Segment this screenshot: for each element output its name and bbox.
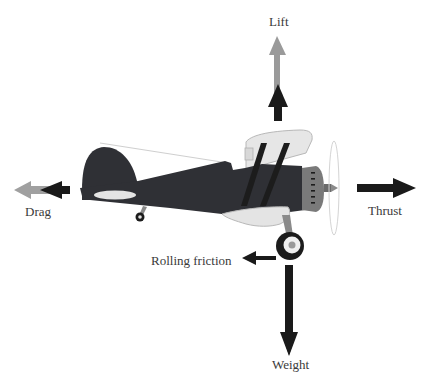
lift-label: Lift [269, 15, 289, 28]
main-wheel-hub [289, 242, 296, 249]
cockpit-windshield [245, 148, 253, 160]
drag-arrow [14, 181, 70, 199]
rolling-friction-label: Rolling friction [151, 254, 232, 267]
rolling-friction-arrow [242, 251, 276, 265]
weight-arrow [280, 265, 298, 356]
tail-wheel-hub [138, 215, 142, 219]
tailplane [94, 191, 136, 200]
propeller-shaft [324, 184, 331, 192]
force-diagram [0, 0, 429, 387]
thrust-arrow [357, 178, 416, 198]
weight-label: Weight [272, 358, 309, 371]
lift-arrow [268, 36, 288, 121]
propeller-spinner [331, 184, 338, 192]
thrust-label: Thrust [368, 204, 402, 217]
biplane [80, 130, 339, 260]
drag-label: Drag [25, 205, 51, 218]
